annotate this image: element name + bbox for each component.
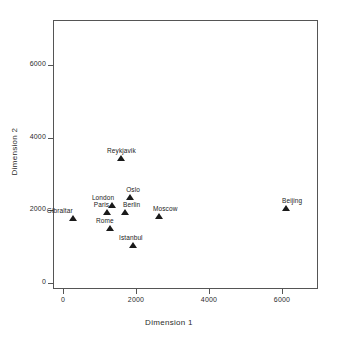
data-point-label: Moscow [153,205,177,212]
x-tick-label: 4000 [189,296,229,303]
x-tick-label: 6000 [262,296,302,303]
y-tick-label: 0 [6,278,46,285]
x-tick-mark [63,289,64,294]
plot-area-frame [53,20,318,289]
data-point-label: Reykjavik [107,147,136,154]
x-axis-title: Dimension 1 [0,318,338,327]
x-tick-mark [209,289,210,294]
x-tick-mark [282,289,283,294]
triangle-marker-icon [129,242,137,248]
triangle-marker-icon [126,194,134,200]
triangle-marker-icon [121,209,129,215]
triangle-marker-icon [117,155,125,161]
y-axis-title: Dimension 2 [10,112,19,192]
triangle-marker-icon [103,209,111,215]
data-point-label: Beijing [282,197,302,204]
x-tick-label: 0 [43,296,83,303]
data-point-label: Berlin [123,201,140,208]
data-point-label: Istanbul [119,234,143,241]
x-tick-label: 2000 [116,296,156,303]
y-tick-label: 6000 [6,60,46,67]
data-point-label: Paris [94,201,109,208]
data-point-label: Gibraltar [47,207,73,214]
triangle-marker-icon [155,213,163,219]
data-point-label: London [92,194,114,201]
y-tick-mark [48,283,53,284]
x-tick-mark [136,289,137,294]
y-tick-label: 2000 [6,205,46,212]
triangle-marker-icon [69,215,77,221]
y-tick-mark [48,138,53,139]
data-point-label: Oslo [126,186,140,193]
triangle-marker-icon [106,225,114,231]
scatter-plot-figure: 0200040006000 0200040006000 GibraltarLon… [0,0,338,347]
data-point-label: Rome [96,217,114,224]
triangle-marker-icon [282,205,290,211]
y-tick-mark [48,65,53,66]
